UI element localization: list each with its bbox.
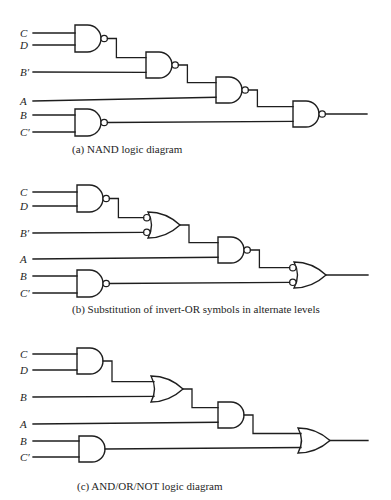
- wire-g3-g4: [250, 250, 289, 268]
- logic-diagrams-canvas: CDB′ABC′ (a) NAND logic diagram CDB′ABC′…: [0, 0, 391, 500]
- inversion-bubble-icon: [244, 247, 250, 253]
- wire-g1-g2: [107, 39, 146, 58]
- nand-gate-2: [146, 52, 178, 78]
- nand-gate-3: [216, 77, 248, 103]
- wire-a: [33, 422, 218, 424]
- inversion-bubble-icon: [290, 279, 296, 285]
- wire-g5-g4: [107, 121, 293, 122]
- wire-a: [33, 257, 218, 259]
- input-label: C: [20, 348, 28, 360]
- or-gate-4: [298, 428, 330, 453]
- inversion-bubble-icon: [101, 119, 107, 125]
- wire-g5-g4: [105, 448, 301, 450]
- wire-g1-g2: [103, 361, 154, 382]
- wire-g5-g4: [109, 282, 289, 283]
- and-gate-5: [79, 436, 105, 462]
- input-label: A: [19, 95, 27, 107]
- nand-gate-5: [75, 109, 107, 136]
- nand-gate-4: [293, 101, 325, 127]
- caption-a: (a) NAND logic diagram: [72, 143, 183, 156]
- inversion-bubble-icon: [242, 87, 248, 93]
- wire-g3-g4: [248, 90, 293, 107]
- input-label: B: [20, 270, 27, 282]
- input-label: D: [19, 39, 28, 51]
- input-label: D: [19, 364, 28, 376]
- input-label: B′: [20, 227, 30, 239]
- inversion-bubble-icon: [144, 229, 150, 235]
- input-label: C′: [20, 451, 30, 463]
- caption-c: (c) AND/OR/NOT logic diagram: [77, 480, 223, 493]
- inversion-bubble-icon: [103, 195, 109, 201]
- input-label: C′: [20, 287, 30, 299]
- nand-gate-5: [77, 270, 109, 297]
- wire-b: [33, 232, 144, 233]
- wire-a: [33, 97, 216, 101]
- invert-or-gate-2: [144, 212, 180, 238]
- diagram-c-and-or-not: CDBABC′: [19, 348, 368, 463]
- input-label: B′: [20, 66, 30, 78]
- inversion-bubble-icon: [290, 265, 296, 271]
- input-label: C′: [20, 126, 30, 138]
- inversion-bubble-icon: [103, 280, 109, 286]
- nand-gate-3: [218, 237, 250, 263]
- input-label: C: [20, 27, 28, 39]
- nand-gate-1: [77, 185, 109, 212]
- wire-g1-g2: [109, 199, 143, 218]
- and-gate-3: [218, 402, 244, 428]
- input-label: D: [19, 200, 28, 212]
- inversion-bubble-icon: [319, 111, 325, 117]
- inversion-bubble-icon: [144, 215, 150, 221]
- inversion-bubble-icon: [172, 62, 178, 68]
- caption-b: (b) Substitution of invert-OR symbols in…: [72, 303, 320, 316]
- input-label: B: [20, 109, 27, 121]
- wire-g2-g3: [183, 389, 218, 408]
- wire-g2-g3: [178, 65, 216, 83]
- input-label: C: [20, 186, 28, 198]
- input-label: B: [20, 391, 27, 403]
- input-label: A: [19, 418, 27, 430]
- diagram-a-nand: CDB′ABC′: [19, 25, 367, 138]
- nand-gate-1: [75, 25, 107, 52]
- invert-or-gate-4: [290, 262, 326, 288]
- input-label: A: [19, 253, 27, 265]
- inversion-bubble-icon: [101, 35, 107, 41]
- wire-b: [33, 396, 154, 397]
- and-gate-1: [77, 348, 103, 374]
- or-gate-2: [151, 376, 183, 402]
- wire-g2-g3: [180, 225, 218, 243]
- input-label: B: [20, 435, 27, 447]
- wire-g3-g4: [244, 415, 301, 434]
- diagram-b-invert-or: CDB′ABC′: [19, 185, 368, 299]
